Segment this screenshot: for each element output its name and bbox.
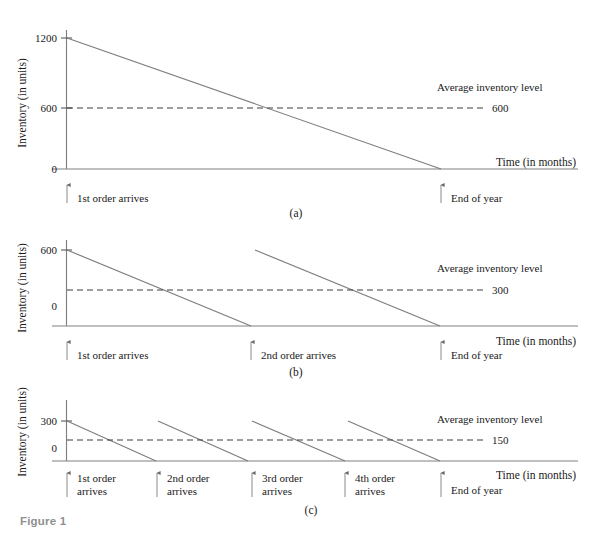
panel-b-inventory-line-cycle-1	[67, 250, 251, 326]
panel-c-inventory-line-cycle-1	[67, 421, 156, 461]
panel-b-average-inventory-note: Average inventory level	[437, 262, 542, 274]
panel-a: Inventory (in units) 1200 600 0 Average …	[16, 30, 578, 220]
panel-a-y-axis-title: Inventory (in units)	[16, 58, 29, 148]
figure-caption: Figure 1	[20, 515, 66, 527]
panel-c-average-inventory-value: 150	[492, 434, 509, 446]
panel-a-label: (a)	[290, 207, 303, 220]
panel-c-order-marker-3-label-line2: arrives	[262, 485, 292, 497]
panel-c-end-of-year-label: End of year	[451, 484, 503, 496]
panel-a-tick-label-0: 0	[52, 163, 58, 175]
panel-a-average-inventory-value: 600	[492, 102, 509, 114]
panel-c-tick-label-300: 300	[41, 415, 58, 427]
panel-c-order-marker-1-label-line1: 1st order	[77, 472, 116, 484]
panel-a-average-inventory-note: Average inventory level	[437, 81, 542, 93]
panel-c-inventory-line-cycle-2	[158, 421, 248, 461]
panel-a-end-of-year-label: End of year	[451, 192, 503, 204]
panel-b-x-axis-title: Time (in months)	[496, 335, 576, 348]
panel-c-y-axis-title: Inventory (in units)	[16, 387, 29, 477]
panel-c-tick-label-0: 0	[52, 442, 58, 454]
panel-c-order-marker-2-label-line2: arrives	[167, 485, 197, 497]
panel-c-inventory-line-cycle-3	[252, 421, 345, 461]
panel-a-tick-label-1200: 1200	[35, 32, 58, 44]
panel-a-order-marker-1-label: 1st order arrives	[77, 192, 148, 204]
panel-c-order-marker-4-label-line1: 4th order	[355, 472, 395, 484]
panel-b-tick-label-0: 0	[52, 300, 58, 312]
panel-c-order-marker-2-label-line1: 2nd order	[167, 472, 210, 484]
panel-b-end-of-year-label: End of year	[451, 349, 503, 361]
panel-c-order-marker-4-label-line2: arrives	[355, 485, 385, 497]
panel-c-average-inventory-note: Average inventory level	[437, 413, 542, 425]
panel-c-order-marker-3-label-line1: 3rd order	[262, 472, 303, 484]
panel-c-label: (c)	[305, 504, 318, 517]
panel-a-x-axis-title: Time (in months)	[496, 156, 576, 169]
panel-b: Inventory (in units) 600 0 Average inven…	[16, 240, 578, 379]
panel-b-label: (b)	[289, 366, 303, 379]
panel-a-inventory-line-cycle-1	[67, 38, 441, 169]
panel-b-tick-label-600: 600	[41, 244, 58, 256]
panel-c-inventory-line-cycle-4	[348, 421, 440, 461]
panel-c: Inventory (in units) 300 0 Average inven…	[16, 387, 578, 517]
panel-c-order-marker-1-label-line2: arrives	[77, 485, 107, 497]
panel-a-tick-label-600: 600	[41, 102, 58, 114]
inventory-figure-svg: Inventory (in units) 1200 600 0 Average …	[0, 0, 596, 550]
figure-container: Inventory (in units) 1200 600 0 Average …	[0, 0, 596, 550]
panel-b-inventory-line-cycle-2	[255, 250, 440, 326]
panel-b-average-inventory-value: 300	[492, 284, 509, 296]
panel-b-order-marker-2-label: 2nd order arrives	[261, 349, 336, 361]
panel-c-x-axis-title: Time (in months)	[496, 469, 576, 482]
panel-b-y-axis-title: Inventory (in units)	[16, 243, 29, 333]
panel-b-order-marker-1-label: 1st order arrives	[77, 349, 148, 361]
